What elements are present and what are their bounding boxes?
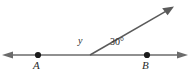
point-a-label: A [33,60,40,71]
ray-segment [90,11,167,55]
point-b-label: B [142,60,149,71]
point-a-dot [35,52,41,58]
ray-arrowhead-icon [162,7,174,16]
unknown-angle-label: y [78,36,82,46]
ray-group [90,7,174,56]
geometry-canvas [0,0,190,75]
right-arrowhead-icon [177,51,188,58]
angle-diagram-figure: A B y 30° [0,0,190,75]
left-arrowhead-icon [2,51,13,58]
known-angle-label: 30° [110,37,124,47]
point-b-dot [144,52,150,58]
